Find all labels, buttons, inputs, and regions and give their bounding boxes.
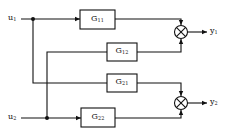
block-label-g21: G21 [107,78,137,86]
block-diagram-canvas [0,0,230,134]
wire-g11-s1 [115,19,181,25]
wire-g22-s2 [115,110,181,118]
branch-point-u1 [31,17,35,21]
block-label-g22: G22 [81,113,115,121]
input-label-u1: u1 [8,14,16,22]
summing-junction-2 [175,97,188,110]
wire-g12-s1 [137,39,181,52]
output-label-y2: y2 [210,98,218,106]
summing-junction-1 [175,26,188,39]
input-label-u2: u2 [8,113,16,121]
block-label-g11: G11 [80,15,115,23]
block-label-g12: G12 [107,47,137,55]
output-label-y1: y1 [210,27,218,35]
wire-g21-s2 [137,83,181,96]
branch-point-u2 [45,116,49,120]
